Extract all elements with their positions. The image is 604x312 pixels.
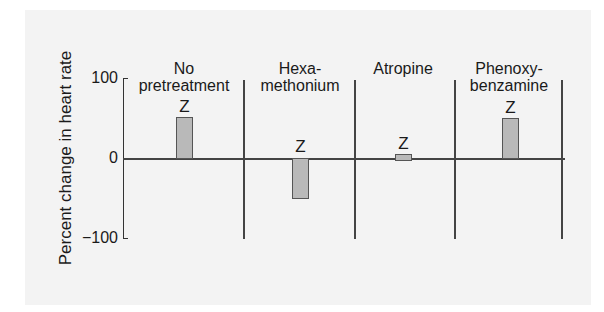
category-label-line: No [139, 60, 230, 77]
category-label-line: Atropine [373, 60, 433, 77]
y-tick-minus-100: −100 [58, 229, 118, 247]
y-tick-mark-bottom [123, 238, 128, 239]
y-tick-100: 100 [58, 69, 118, 87]
bar-atropine [395, 154, 412, 161]
bar-annotation-hexamethonium: Z [295, 137, 305, 157]
group-divider-3 [454, 80, 456, 239]
category-label-atropine: Atropine [373, 60, 433, 77]
y-tick-0: 0 [58, 149, 118, 167]
category-label-line: methonium [260, 77, 339, 94]
category-label-phenoxybenzamine: Phenoxy- benzamine [470, 60, 548, 94]
category-label-line: pretreatment [139, 77, 230, 94]
bar-no-pretreatment [176, 117, 193, 159]
group-divider-1 [243, 80, 245, 239]
category-label-no-pretreatment: No pretreatment [139, 60, 230, 94]
bar-phenoxybenzamine [502, 118, 519, 159]
category-label-line: Phenoxy- [470, 60, 548, 77]
category-label-line: benzamine [470, 77, 548, 94]
group-divider-2 [354, 80, 356, 239]
bar-annotation-atropine: Z [398, 134, 408, 154]
bar-hexamethonium [292, 158, 309, 199]
bar-annotation-phenoxybenzamine: Z [505, 98, 515, 118]
bar-annotation-no-pretreatment: Z [179, 97, 189, 117]
group-divider-4 [561, 80, 563, 239]
y-tick-mark-top [123, 78, 128, 79]
category-label-hexamethonium: Hexa- methonium [260, 60, 339, 94]
category-label-line: Hexa- [260, 60, 339, 77]
